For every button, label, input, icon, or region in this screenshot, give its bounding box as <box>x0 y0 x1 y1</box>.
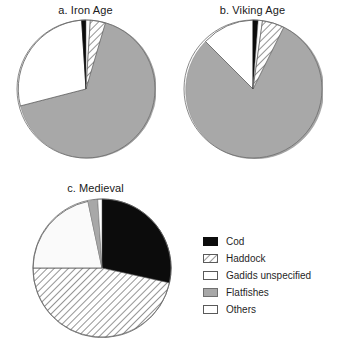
legend-label-gadids-unspecified: Gadids unspecified <box>226 270 311 281</box>
pie-chart-iron-age <box>16 19 156 159</box>
legend-swatch-cod-icon <box>203 237 218 246</box>
legend-item-others: Others <box>203 301 339 317</box>
legend-swatch-gadids-unspecified-icon <box>203 271 218 280</box>
panel-iron-age: a. Iron Age <box>8 4 163 159</box>
legend-item-haddock: Haddock <box>203 250 339 266</box>
pie-svg-viking-age <box>183 19 323 159</box>
legend-swatch-others-icon <box>203 305 218 314</box>
chart-legend: Cod Haddock Gadids unspecified <box>203 233 339 318</box>
legend-label-haddock: Haddock <box>226 253 265 264</box>
legend-swatch-flatfishes-icon <box>203 288 218 297</box>
legend-label-cod: Cod <box>226 236 244 247</box>
pie-slice-haddock <box>33 268 170 338</box>
pie-svg-medieval <box>32 198 172 338</box>
legend-label-flatfishes: Flatfishes <box>226 287 269 298</box>
panel-title-medieval: c. Medieval <box>8 182 183 195</box>
panel-title-iron-age: a. Iron Age <box>8 4 163 17</box>
figure-pie-chart-group: a. Iron Age <box>0 0 342 359</box>
legend-label-others: Others <box>226 304 256 315</box>
panel-title-viking-age: b. Viking Age <box>175 4 330 17</box>
legend-swatch-haddock-icon <box>203 254 218 263</box>
legend-item-cod: Cod <box>203 233 339 249</box>
pie-chart-medieval <box>32 198 172 338</box>
pie-chart-viking-age <box>183 19 323 159</box>
panel-medieval: c. Medieval <box>8 182 183 338</box>
legend-item-gadids-unspecified: Gadids unspecified <box>203 267 339 283</box>
panel-viking-age: b. Viking Age <box>175 4 330 159</box>
pie-svg-iron-age <box>16 19 156 159</box>
legend-item-flatfishes: Flatfishes <box>203 284 339 300</box>
